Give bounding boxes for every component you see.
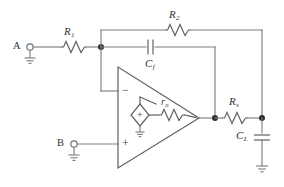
component-label-ro-sub: o <box>165 101 168 108</box>
component-label-r2-base: R <box>169 8 176 20</box>
component-label-cl-base: C <box>236 129 243 141</box>
resistor-r2-symbol <box>165 25 191 36</box>
component-label-cf: Cf <box>145 58 154 69</box>
component-label-rs: Rs <box>229 96 238 107</box>
terminal-label-a: A <box>13 41 21 52</box>
ground-symbol-b <box>69 155 80 160</box>
circuit-diagram-figure: A B R1 R2 Cf ro Rs CL − + + <box>0 0 284 187</box>
opamp-inverting-input-sign: − <box>122 84 129 96</box>
component-label-cl: CL <box>236 130 247 141</box>
terminal-b-ring <box>71 141 77 147</box>
opamp-noninverting-input-sign: + <box>122 137 129 149</box>
ground-symbol-a <box>25 58 36 63</box>
dependent-source-plus-sign: + <box>137 110 143 120</box>
resistor-r1-symbol <box>61 42 87 53</box>
schematic-svg <box>0 0 284 187</box>
component-label-r2-sub: 2 <box>176 14 180 22</box>
component-label-r1: R1 <box>64 26 74 37</box>
capacitor-cf-symbol <box>148 40 153 55</box>
component-label-cl-sub: L <box>244 135 248 143</box>
resistor-ro-symbol <box>159 110 185 121</box>
capacitor-cl-symbol <box>254 135 270 140</box>
terminal-a-ring <box>27 44 33 50</box>
component-label-r2: R2 <box>169 9 179 20</box>
component-label-rs-base: R <box>229 95 236 107</box>
wire-source-top-to-ro <box>140 97 156 104</box>
component-label-cf-base: C <box>145 57 152 69</box>
terminal-label-b: B <box>57 138 64 149</box>
component-label-r1-sub: 1 <box>71 31 75 39</box>
component-label-ro: ro <box>161 97 168 107</box>
ground-symbol-dependent-source <box>136 132 145 137</box>
resistor-rs-symbol <box>222 113 248 124</box>
component-label-rs-sub: s <box>236 101 239 109</box>
opamp-triangle-body <box>118 67 199 168</box>
component-label-cf-sub: f <box>153 63 155 71</box>
ground-symbol-load <box>256 166 268 172</box>
component-label-r1-base: R <box>64 25 71 37</box>
